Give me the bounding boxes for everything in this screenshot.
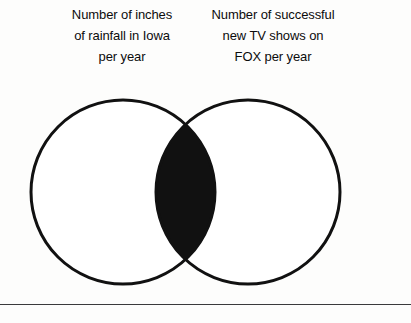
venn-diagram-svg	[0, 92, 411, 298]
right-caption-line-1: Number of successful	[160, 4, 386, 25]
bottom-horizontal-rule	[0, 304, 411, 305]
right-caption-line-3: FOX per year	[160, 46, 386, 67]
venn-diagram	[0, 92, 411, 298]
venn-diagram-page: Number of inches of rainfall in Iowa per…	[0, 0, 411, 323]
right-caption-line-2: new TV shows on	[160, 25, 386, 46]
right-set-caption: Number of successful new TV shows on FOX…	[160, 4, 386, 67]
